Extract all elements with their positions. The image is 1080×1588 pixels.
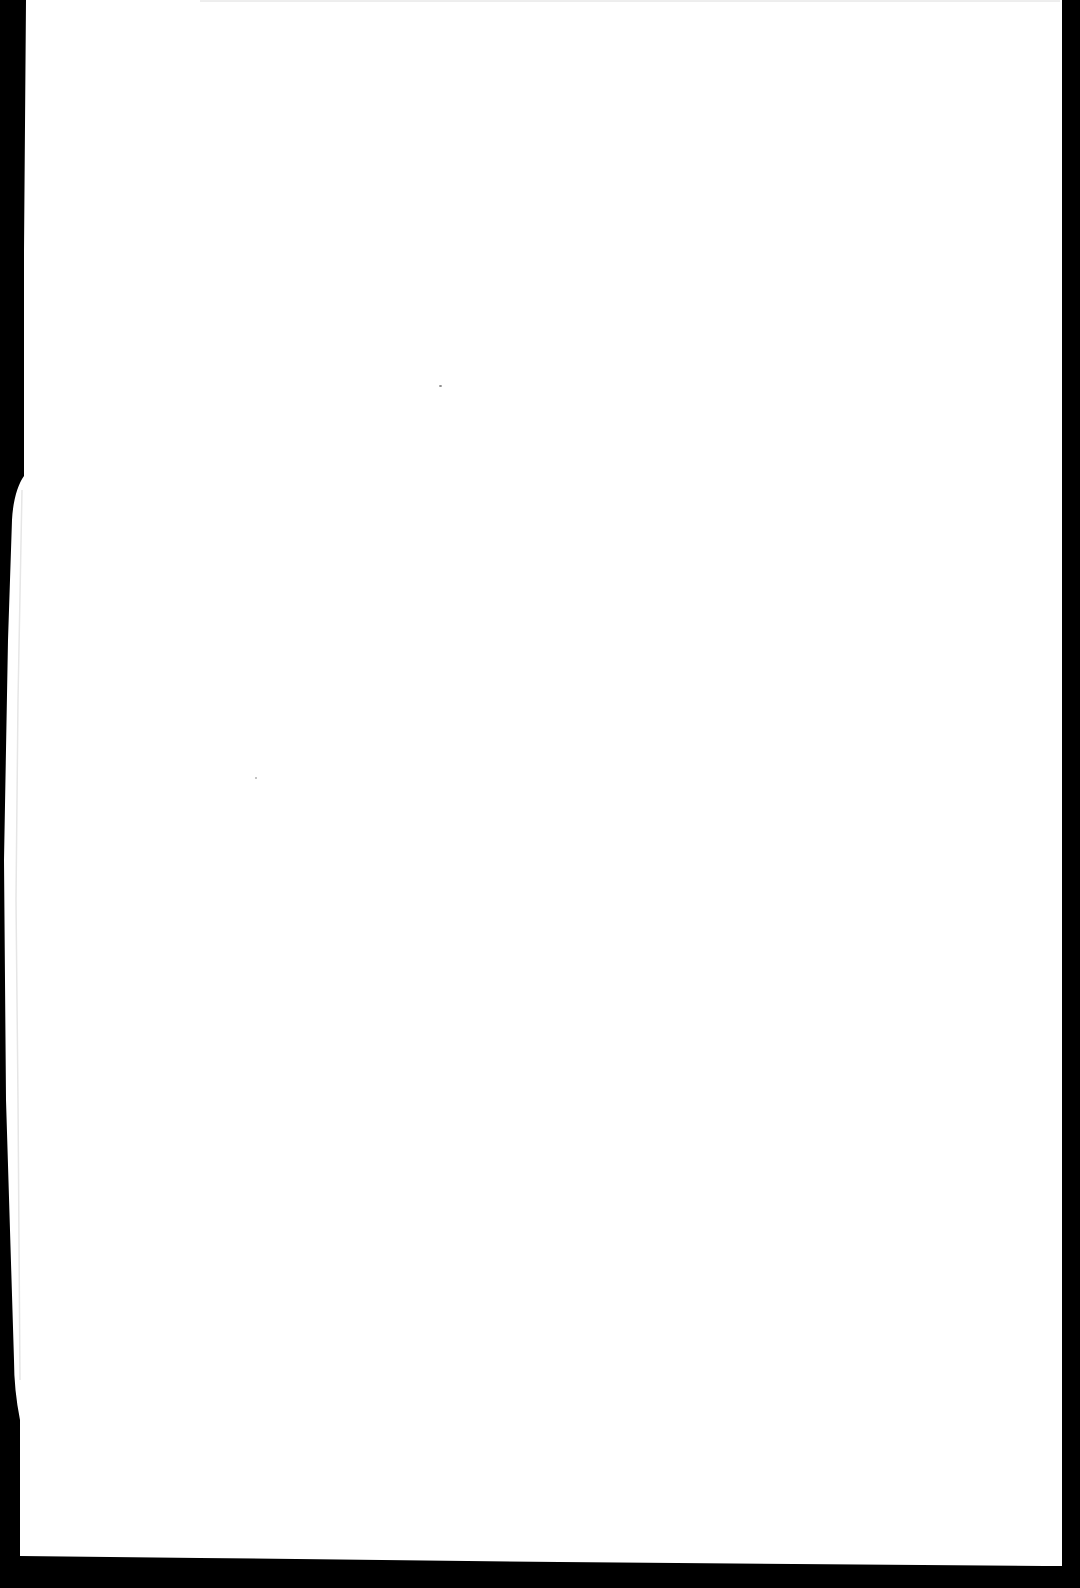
dust-speck <box>439 385 442 387</box>
blank-paper-sheet <box>0 0 1080 1588</box>
dust-speck <box>255 777 257 779</box>
scanned-page-view <box>0 0 1080 1588</box>
scanner-corner-mark <box>1045 1566 1062 1588</box>
paper-outline <box>0 0 1080 1588</box>
